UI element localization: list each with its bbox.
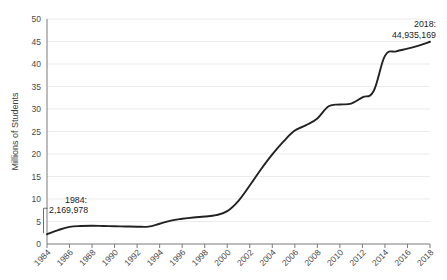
y-axis-title: Millions of Students: [10, 92, 20, 171]
y-axis-title-group: Millions of Students: [10, 92, 20, 171]
start-annotation-year: 1984:: [65, 195, 87, 205]
y-tick-label-10: 10: [32, 194, 42, 204]
y-tick-label-35: 35: [32, 82, 42, 92]
y-tick-label-30: 30: [32, 104, 42, 114]
y-tick-label-0: 0: [36, 239, 41, 249]
y-tick-label-20: 20: [32, 149, 42, 159]
y-tick-label-25: 25: [32, 127, 42, 137]
end-annotation-value: 44,935,169: [392, 30, 436, 40]
chart-container: 05101520253035404550 1984198619881990199…: [0, 0, 447, 280]
end-annotation-year: 2018:: [414, 19, 436, 29]
start-annotation-value: 2,169,978: [49, 205, 88, 215]
y-tick-label-50: 50: [32, 14, 42, 24]
y-tick-label-40: 40: [32, 59, 42, 69]
y-tick-label-15: 15: [32, 172, 42, 182]
y-tick-label-45: 45: [32, 37, 42, 47]
y-tick-label-5: 5: [36, 217, 41, 227]
line-chart: 05101520253035404550 1984198619881990199…: [0, 0, 447, 280]
